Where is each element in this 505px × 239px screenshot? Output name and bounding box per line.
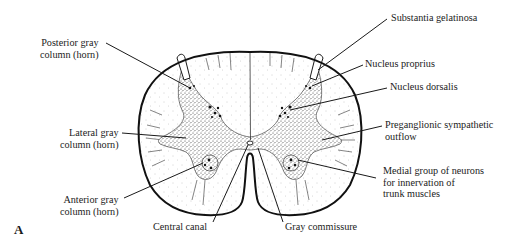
label-central-canal: Central canal: [153, 221, 207, 233]
label-medial-group-neurons: Medial group of neurons for innervation …: [383, 165, 484, 200]
cropped-caption-top: [0, 0, 505, 3]
label-lateral-gray-column: Lateral gray column (horn): [60, 127, 119, 150]
label-nucleus-dorsalis: Nucleus dorsalis: [390, 81, 458, 93]
label-posterior-gray-column: Posterior gray column (horn): [40, 37, 99, 60]
label-nucleus-proprius: Nucleus proprius: [365, 58, 435, 70]
label-preganglionic-sympathetic-outflow: Preganglionic sympathetic outflow: [385, 119, 493, 142]
label-substantia-gelatinosa: Substantia gelatinosa: [391, 12, 477, 24]
label-anterior-gray-column: Anterior gray column (horn): [60, 194, 119, 217]
panel-letter: A: [14, 222, 23, 238]
spinal-cord-diagram: Posterior gray column (horn) Lateral gra…: [0, 0, 505, 239]
central-canal-shape: [247, 141, 253, 145]
label-gray-commissure: Gray commissure: [285, 221, 357, 233]
